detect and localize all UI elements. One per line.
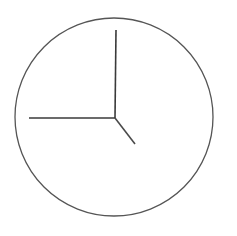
analog-clock [0,0,237,236]
clock-svg [0,0,237,236]
clock-face [15,18,213,216]
minute-hand [115,30,116,118]
